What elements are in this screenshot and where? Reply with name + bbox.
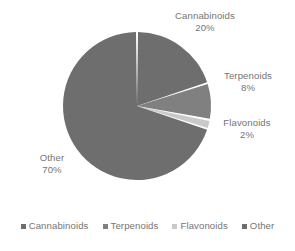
chart-legend: CannabinoidsTerpenoidsFlavonoidsOther	[0, 216, 295, 236]
legend-item-terpenoids[interactable]: Terpenoids	[103, 220, 159, 232]
legend-swatch-icon-other	[242, 224, 247, 229]
data-label-other-name: Other	[16, 152, 88, 164]
data-label-flavonoids-value: 2%	[203, 129, 291, 141]
data-label-cannabinoids-value: 20%	[150, 22, 260, 34]
data-label-cannabinoids: Cannabinoids 20%	[150, 10, 260, 35]
legend-item-flavonoids[interactable]: Flavonoids	[172, 220, 227, 232]
legend-swatch-icon-cannabinoids	[21, 224, 26, 229]
pie-chart: Cannabinoids 20% Terpenoids 8% Flavonoid…	[0, 0, 295, 251]
data-label-other-value: 70%	[16, 164, 88, 176]
data-label-flavonoids: Flavonoids 2%	[203, 117, 291, 142]
legend-swatch-icon-flavonoids	[172, 224, 177, 229]
data-label-terpenoids-value: 8%	[205, 82, 291, 94]
legend-item-cannabinoids[interactable]: Cannabinoids	[21, 220, 89, 232]
legend-label: Cannabinoids	[29, 220, 89, 232]
legend-label: Flavonoids	[180, 220, 227, 232]
legend-label: Terpenoids	[111, 220, 159, 232]
data-label-terpenoids: Terpenoids 8%	[205, 70, 291, 95]
legend-item-other[interactable]: Other	[242, 220, 275, 232]
data-label-flavonoids-name: Flavonoids	[203, 117, 291, 129]
legend-label: Other	[250, 220, 275, 232]
legend-swatch-icon-terpenoids	[103, 224, 108, 229]
data-label-cannabinoids-name: Cannabinoids	[150, 10, 260, 22]
data-label-other: Other 70%	[16, 152, 88, 177]
data-label-terpenoids-name: Terpenoids	[205, 70, 291, 82]
